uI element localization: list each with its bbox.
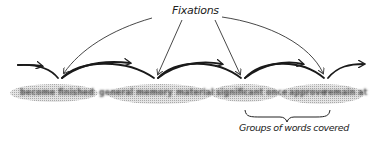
saccade-arc-1 bbox=[62, 64, 154, 78]
word-3: general bbox=[99, 88, 133, 97]
word-7: once bbox=[266, 88, 287, 97]
word-6: significant bbox=[216, 88, 263, 97]
word-9: remain bbox=[324, 88, 356, 97]
fixations-label: Fixations bbox=[172, 4, 219, 17]
saccade-path bbox=[18, 62, 364, 78]
saccade-arc-exit bbox=[328, 64, 364, 78]
fixation-pointers bbox=[64, 17, 323, 74]
word-4: memory bbox=[136, 88, 173, 97]
word-10: at bbox=[358, 88, 367, 97]
word-1: become bbox=[20, 88, 55, 97]
pointer-fixation-1 bbox=[64, 18, 152, 73]
word-2: finished bbox=[58, 88, 94, 97]
saccade-arc-entry bbox=[18, 65, 58, 78]
word-5: material bbox=[176, 88, 214, 97]
groups-of-words-label: Groups of words covered bbox=[239, 122, 349, 133]
group-brace bbox=[245, 110, 330, 122]
word-8: approve bbox=[289, 88, 326, 97]
